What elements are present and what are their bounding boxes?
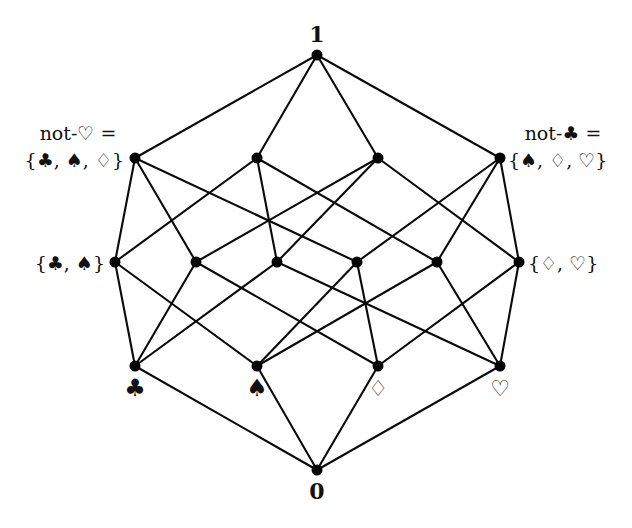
not-hearts-label: not-♡ = [40,122,117,144]
edge-sd-s [257,262,357,366]
edge-cd-d [196,262,378,366]
edge-cdh-dh [378,158,519,262]
node-dh [514,257,525,268]
top-label: 1 [309,21,324,47]
node-s [252,361,263,372]
node-cs [110,257,121,268]
node-ch [272,257,283,268]
edge-cdh-ch [277,158,378,262]
clubs-spades-label: {♣, ♠} [35,252,105,274]
node-h [495,361,506,372]
edge-csd-cs [115,158,135,262]
edge-h-bottom [317,366,500,470]
edge-cs-c [115,262,135,366]
edge-dh-h [500,262,519,366]
diamonds-label: ♢ [368,376,388,401]
node-bottom [312,465,323,476]
edge-cdh-cd [196,158,378,262]
edge-top-csd [135,55,317,158]
bottom-label: 0 [309,478,324,504]
edge-ch-c [135,262,277,366]
lattice-diagram: 1 0 not-♡ = {♣, ♠, ♢} not-♣ = {♠, ♢, ♡} … [0,0,632,528]
node-csd [130,153,141,164]
node-cd [191,257,202,268]
edge-sd-d [357,262,378,366]
edge-csh-sh [257,158,437,262]
node-cdh [373,153,384,164]
edge-sh-s [257,262,437,366]
clubs-label: ♣ [124,374,146,402]
edge-csh-ch [257,158,277,262]
node-d [373,361,384,372]
node-top [312,50,323,61]
not-clubs-label: not-♣ = [525,122,602,144]
edge-csd-sd [135,158,357,262]
edge-dh-d [378,262,519,366]
edge-top-sdh [317,55,500,158]
hearts-label: ♡ [490,376,510,401]
edge-ch-h [277,262,500,366]
diamonds-hearts-label: {♢, ♡} [528,252,598,274]
lattice-edges [115,55,519,470]
node-sd [352,257,363,268]
edge-sdh-sh [437,158,500,262]
not-clubs-set-label: {♠, ♢, ♡} [508,149,607,171]
edge-sdh-dh [500,158,519,262]
node-sdh [495,153,506,164]
node-sh [432,257,443,268]
not-hearts-set-label: {♣, ♠, ♢} [25,149,124,171]
edge-sdh-sd [357,158,500,262]
lattice-nodes [110,50,525,476]
edge-top-csh [257,55,317,158]
edge-top-cdh [317,55,378,158]
edge-c-bottom [135,366,317,470]
node-c [130,361,141,372]
spades-label: ♠ [246,374,268,402]
node-csh [252,153,263,164]
